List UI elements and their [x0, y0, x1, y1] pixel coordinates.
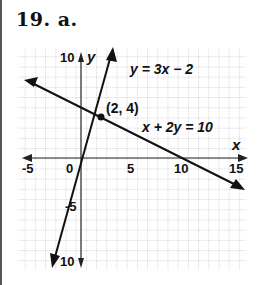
x-tick-10: 10 — [174, 161, 188, 176]
x-tick-5: 5 — [127, 161, 134, 176]
x-tick-15: 15 — [229, 161, 243, 176]
x-tick-neg5: -5 — [22, 161, 34, 176]
coordinate-graph: x y -5 0 5 10 15 10 -5 10 (2, 4) y = 3x … — [0, 0, 262, 285]
intersection-label: (2, 4) — [106, 100, 139, 116]
y-tick-neg10: 10 — [60, 254, 74, 269]
line2-equation-label: x + 2y = 10 — [141, 119, 213, 135]
y-axis-label: y — [86, 48, 96, 65]
x-axis-label: x — [231, 136, 241, 153]
y-tick-10: 10 — [60, 50, 74, 65]
intersection-point — [98, 114, 105, 121]
grid — [18, 48, 246, 270]
line1-equation-label: y = 3x − 2 — [129, 61, 193, 77]
x-tick-0: 0 — [66, 161, 73, 176]
